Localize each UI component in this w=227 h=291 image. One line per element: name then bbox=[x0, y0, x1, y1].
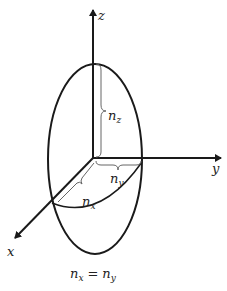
index-ellipsoid-diagram: z y x nz ny nx nx=ny bbox=[0, 0, 227, 291]
nx-label: nx bbox=[82, 194, 95, 211]
z-axis-label: z bbox=[97, 8, 105, 23]
y-axis-label: y bbox=[211, 161, 220, 176]
nz-label: nz bbox=[108, 108, 121, 125]
ny-brace bbox=[96, 161, 141, 170]
nz-brace bbox=[96, 64, 106, 157]
caption-equation: nx=ny bbox=[70, 266, 117, 283]
x-axis-label: x bbox=[7, 244, 15, 259]
ny-label: ny bbox=[110, 171, 124, 188]
